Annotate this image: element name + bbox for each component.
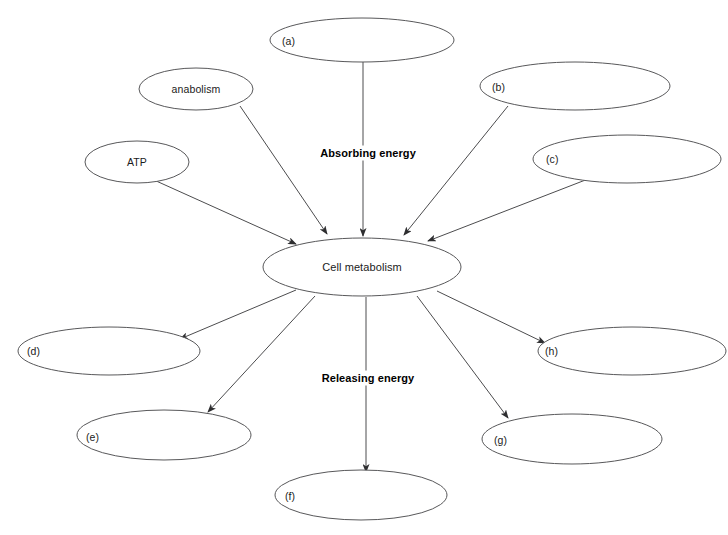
node-e[interactable]: [77, 410, 251, 460]
edge-center-to-d: [180, 290, 296, 339]
edge-center-to-g: [417, 296, 508, 418]
node-f[interactable]: [275, 470, 447, 520]
node-a[interactable]: [270, 18, 454, 62]
cell-metabolism[interactable]: [263, 238, 461, 296]
diagram-canvas: [0, 0, 728, 535]
node-h[interactable]: [538, 327, 726, 375]
edge-center-to-h: [437, 291, 545, 343]
edge-center-to-e: [208, 296, 315, 412]
node-atp[interactable]: [85, 141, 189, 183]
node-g[interactable]: [482, 414, 662, 464]
node-anabolism[interactable]: [139, 68, 253, 110]
node-d[interactable]: [18, 327, 200, 375]
node-b[interactable]: [480, 62, 670, 110]
edge-anabolism-to-center: [240, 106, 327, 234]
concept-map-diagram: (a)anabolism(b)ATP(c)(d)(e)(f)(g)(h)Cell…: [0, 0, 728, 535]
edge-c-to-center: [428, 179, 588, 241]
nodes-group: [18, 18, 726, 520]
edge-atp-to-center: [154, 180, 296, 244]
node-c[interactable]: [533, 135, 721, 183]
